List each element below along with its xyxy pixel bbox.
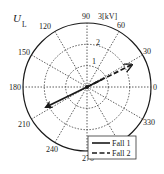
polar-phasor-diagram: U L 3[kV] 2 1 0 30 60 90 120 150 180 210… [0,0,164,174]
radial-label-2: 2 [96,38,100,47]
angle-label-150: 150 [18,48,30,57]
legend-label-fall-1: Fall 1 [112,139,130,148]
angle-label-30: 30 [143,47,151,56]
legend-label-fall-2: Fall 2 [112,149,130,158]
legend: Fall 1 Fall 2 [88,136,136,159]
phasor-fall-1 [46,79,103,107]
angle-label-210: 210 [18,120,30,129]
angle-label-90: 90 [82,12,90,21]
radial-label-1: 1 [92,57,96,66]
origin-dot [85,85,89,89]
title-subscript: L [22,20,27,29]
diagram-title: U L [13,12,27,29]
angle-label-180: 180 [9,83,21,92]
angle-label-0: 0 [153,83,157,92]
angle-label-240: 240 [46,145,58,154]
angle-label-330: 330 [143,118,155,127]
angle-label-60: 60 [117,21,125,30]
angle-label-120: 120 [39,22,51,31]
title-symbol: U [13,12,22,24]
radial-unit-label: 3[kV] [98,12,117,21]
